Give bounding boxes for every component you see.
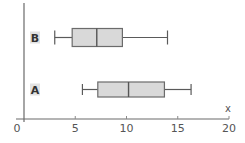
box-a: A — [30, 82, 191, 97]
x-tick-label: 10 — [120, 122, 134, 135]
x-tick-label: 0 — [14, 122, 21, 135]
iqr-box — [98, 82, 165, 97]
x-tick-label: 20 — [222, 122, 236, 135]
category-label: B — [31, 32, 39, 45]
box-b: B — [30, 29, 168, 47]
category-label: A — [31, 84, 40, 97]
x-tick-label: 15 — [171, 122, 185, 135]
box-plot-chart: 05101520 x BA — [0, 0, 245, 143]
axes: 05101520 x — [14, 3, 237, 135]
boxes: BA — [30, 29, 191, 98]
x-tick-label: 5 — [72, 122, 79, 135]
x-axis-title: x — [225, 103, 231, 114]
